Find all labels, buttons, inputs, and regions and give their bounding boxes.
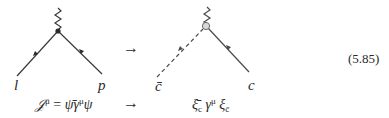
right-outgoing-line	[208, 28, 249, 72]
label-cbar: c̄	[155, 79, 162, 94]
left-vertex-dot	[55, 28, 60, 33]
right-vertex-circle	[202, 22, 209, 29]
equation-number: (5.85)	[348, 52, 379, 65]
transition-arrow-bottom: →	[123, 95, 139, 111]
label-l: l	[14, 78, 18, 93]
right-vertex-diagram	[157, 7, 249, 77]
left-zigzag-current	[55, 8, 61, 30]
left-current-expression: 𝒥μ = ψ̄γμψ	[35, 97, 93, 112]
left-vertex-diagram	[17, 8, 102, 76]
right-incoming-dashed-line	[157, 29, 203, 77]
label-c: c	[248, 78, 255, 93]
right-current-expression: ξ̄c γμ ξc̄	[192, 97, 229, 114]
label-p: p	[98, 78, 106, 93]
current-J: 𝒥	[35, 97, 45, 112]
left-outgoing-line	[58, 31, 102, 74]
transition-arrow-top: →	[123, 40, 139, 56]
